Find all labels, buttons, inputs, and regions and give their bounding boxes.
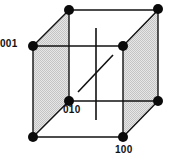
vertex-001	[28, 41, 38, 51]
right-face-shaded	[123, 10, 158, 137]
label-010: 010	[63, 105, 81, 115]
label-001: 001	[0, 39, 18, 49]
cube-diagram	[0, 0, 173, 157]
vertex-back-top-left	[64, 5, 74, 15]
vertex-front-bottom-left	[28, 132, 38, 142]
left-face-shaded	[33, 10, 69, 137]
vertex-back-bottom-right	[153, 96, 163, 106]
vertex-100	[118, 132, 128, 142]
center-lines	[78, 28, 113, 120]
label-100: 100	[115, 145, 133, 155]
vertex-back-top-right	[153, 4, 163, 14]
vertex-front-top-right	[118, 41, 128, 51]
